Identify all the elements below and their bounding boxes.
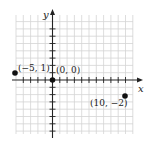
x-axis-label: x bbox=[138, 83, 144, 94]
axes bbox=[12, 12, 140, 138]
y-axis-label: y bbox=[42, 9, 49, 20]
point-label-origin: (0, 0) bbox=[56, 65, 80, 75]
plot-svg: y x (−5, 1) (0, 0) (10, −2) bbox=[0, 0, 151, 144]
x-axis-arrow-icon bbox=[137, 78, 143, 83]
point-marker-origin bbox=[50, 77, 56, 83]
y-axis-arrow-icon bbox=[50, 9, 55, 15]
point-label-neg5-1: (−5, 1) bbox=[18, 63, 50, 73]
coordinate-plane-diagram: y x (−5, 1) (0, 0) (10, −2) bbox=[0, 0, 151, 144]
point-label-10-neg2: (10, −2) bbox=[90, 98, 127, 108]
point-marker-neg5-1 bbox=[12, 70, 18, 76]
